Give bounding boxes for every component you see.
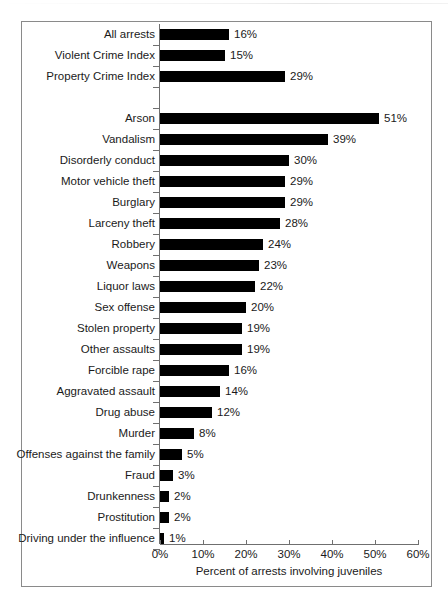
x-axis-tick [289, 540, 290, 545]
y-axis-tick [153, 465, 160, 466]
bar-value-label: 5% [187, 444, 204, 465]
x-axis-tick-label: 20% [234, 548, 257, 560]
bar-value-label: 1% [169, 528, 186, 549]
bar-value-label: 19% [247, 318, 270, 339]
bar [160, 344, 242, 355]
bar-value-label: 16% [234, 24, 257, 45]
category-label: Liquor laws [97, 276, 155, 297]
bar [160, 323, 242, 334]
bar-value-label: 15% [230, 45, 253, 66]
chart-row: Offenses against the family5% [0, 444, 448, 465]
chart-row: Weapons23% [0, 255, 448, 276]
y-axis-tick [153, 87, 160, 88]
y-axis-tick [153, 507, 160, 508]
x-axis-tick [375, 540, 376, 545]
category-label: Driving under the influence [18, 528, 155, 549]
bar-value-label: 19% [247, 339, 270, 360]
bar [160, 407, 212, 418]
chart-row: Murder8% [0, 423, 448, 444]
bar [160, 29, 229, 40]
bar [160, 491, 169, 502]
chart-row: Prostitution2% [0, 507, 448, 528]
category-label: Offenses against the family [17, 444, 156, 465]
chart-row: Larceny theft28% [0, 213, 448, 234]
chart-row: Driving under the influence1% [0, 528, 448, 549]
chart-row: Robbery24% [0, 234, 448, 255]
bar-value-label: 29% [290, 192, 313, 213]
chart-row: Drug abuse12% [0, 402, 448, 423]
chart-row: Violent Crime Index15% [0, 45, 448, 66]
y-axis-tick [153, 360, 160, 361]
x-axis-tick [203, 540, 204, 545]
chart-row: Drunkenness2% [0, 486, 448, 507]
chart-row: Motor vehicle theft29% [0, 171, 448, 192]
y-axis-tick [153, 423, 160, 424]
bar-value-label: 12% [217, 402, 240, 423]
category-label: Stolen property [77, 318, 155, 339]
bar-value-label: 16% [234, 360, 257, 381]
category-label: Drug abuse [96, 402, 155, 423]
y-axis-tick [153, 150, 160, 151]
bar [160, 155, 289, 166]
bar [160, 50, 225, 61]
bar-value-label: 14% [225, 381, 248, 402]
chart-row: All arrests16% [0, 24, 448, 45]
x-axis-tick-label: 10% [191, 548, 214, 560]
bar-value-label: 29% [290, 171, 313, 192]
bar-value-label: 22% [260, 276, 283, 297]
category-label: Sex offense [94, 297, 155, 318]
chart-row: Property Crime Index29% [0, 66, 448, 87]
chart-row: Vandalism39% [0, 129, 448, 150]
chart-row-spacer [0, 87, 448, 108]
chart-row: Other assaults19% [0, 339, 448, 360]
y-axis-tick [153, 297, 160, 298]
bar-value-label: 29% [290, 66, 313, 87]
x-axis-tick-label: 50% [363, 548, 386, 560]
x-axis-title: Percent of arrests involving juveniles [160, 565, 418, 577]
x-axis-tick [160, 540, 161, 545]
y-axis-tick [153, 486, 160, 487]
category-label: Arson [125, 108, 155, 129]
bar-value-label: 2% [174, 507, 191, 528]
y-axis-tick [153, 45, 160, 46]
chart-row: Stolen property19% [0, 318, 448, 339]
y-axis-tick [153, 171, 160, 172]
category-label: Murder [119, 423, 155, 444]
bar [160, 134, 328, 145]
bar-value-label: 2% [174, 486, 191, 507]
y-axis-tick [153, 339, 160, 340]
bar [160, 512, 169, 523]
x-axis-tick [332, 540, 333, 545]
category-label: Prostitution [97, 507, 155, 528]
category-label: Motor vehicle theft [61, 171, 155, 192]
chart-row: Liquor laws22% [0, 276, 448, 297]
bar-chart-plot-area: Percent of arrests involving juveniles A… [0, 0, 448, 600]
bar-value-label: 24% [268, 234, 291, 255]
bar-value-label: 20% [251, 297, 274, 318]
chart-row: Fraud3% [0, 465, 448, 486]
category-label: Larceny theft [89, 213, 155, 234]
y-axis-tick [153, 381, 160, 382]
x-axis-tick-label: 40% [320, 548, 343, 560]
category-label: Robbery [112, 234, 155, 255]
y-axis-tick [153, 66, 160, 67]
bar [160, 449, 182, 460]
bar-value-label: 8% [199, 423, 216, 444]
bar [160, 113, 379, 124]
category-label: Violent Crime Index [55, 45, 155, 66]
y-axis-tick [153, 234, 160, 235]
bar [160, 71, 285, 82]
y-axis-tick [153, 108, 160, 109]
category-label: Drunkenness [87, 486, 155, 507]
x-axis-tick [418, 540, 419, 545]
category-label: Other assaults [81, 339, 155, 360]
y-axis-tick [153, 129, 160, 130]
y-axis-tick [153, 528, 160, 529]
chart-row: Sex offense20% [0, 297, 448, 318]
y-axis-tick [153, 318, 160, 319]
category-label: Burglary [112, 192, 155, 213]
category-label: Disorderly conduct [60, 150, 155, 171]
y-axis-tick [153, 276, 160, 277]
x-axis-tick-label: 60% [406, 548, 429, 560]
bar [160, 239, 263, 250]
